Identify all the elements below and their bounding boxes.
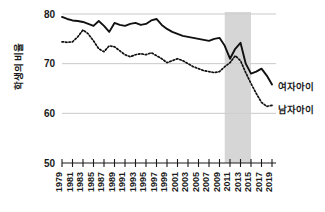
- chart-legend: 여자아이남자아이: [278, 81, 314, 115]
- x-tick-label: 1995: [138, 172, 148, 192]
- x-tick-label: 2011: [222, 172, 232, 192]
- x-tick-label: 2003: [180, 172, 190, 192]
- y-tick-label: 70: [44, 58, 56, 69]
- x-tick-label: 1993: [128, 172, 138, 192]
- x-tick-label: 1991: [117, 172, 127, 192]
- x-tick-label: 2015: [243, 172, 253, 192]
- y-tick-label: 50: [44, 158, 56, 169]
- y-axis-title-text: 학생의 비율: [13, 43, 24, 91]
- x-tick-label: 2017: [254, 172, 264, 192]
- x-tick-label: 1987: [96, 172, 106, 192]
- y-tick-label: 80: [44, 9, 56, 20]
- x-axis-tick-labels: 1979198119831985198719891991199319951997…: [54, 172, 274, 192]
- legend-label-1: 여자아이: [278, 81, 314, 92]
- x-tick-label: 1981: [65, 172, 75, 192]
- x-tick-label: 1999: [159, 172, 169, 192]
- x-tick-label: 2009: [212, 172, 222, 192]
- x-tick-label: 2007: [201, 172, 211, 192]
- chart-container: 50607080 1979198119831985198719891991199…: [0, 0, 325, 212]
- shaded-period-rect: [225, 12, 251, 163]
- y-tick-label: 60: [44, 108, 56, 119]
- legend-label-2: 남자아이: [278, 104, 314, 115]
- x-tick-label: 2001: [170, 172, 180, 192]
- x-tick-label: 1989: [107, 172, 117, 192]
- x-tick-label: 1979: [54, 172, 64, 192]
- x-tick-label: 1983: [75, 172, 85, 192]
- x-tick-label: 2013: [233, 172, 243, 192]
- shaded-period-band: [225, 12, 251, 163]
- x-tick-label: 2005: [191, 172, 201, 192]
- y-axis-tick-labels: 50607080: [44, 9, 56, 169]
- y-axis-title: 학생의 비율: [13, 43, 24, 91]
- x-tick-label: 1997: [149, 172, 159, 192]
- x-tick-label: 2019: [264, 172, 274, 192]
- x-tick-label: 1985: [86, 172, 96, 192]
- line-chart: 50607080 1979198119831985198719891991199…: [0, 0, 325, 212]
